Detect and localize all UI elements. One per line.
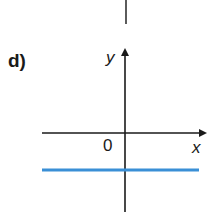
part-label: d): [8, 50, 26, 72]
x-axis-label: x: [192, 138, 201, 158]
y-axis-label: y: [106, 48, 115, 68]
origin-label: 0: [103, 136, 112, 156]
coordinate-diagram: [0, 0, 214, 217]
